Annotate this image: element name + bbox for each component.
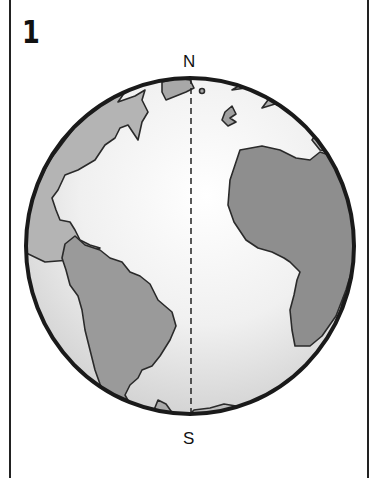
island (200, 89, 205, 94)
